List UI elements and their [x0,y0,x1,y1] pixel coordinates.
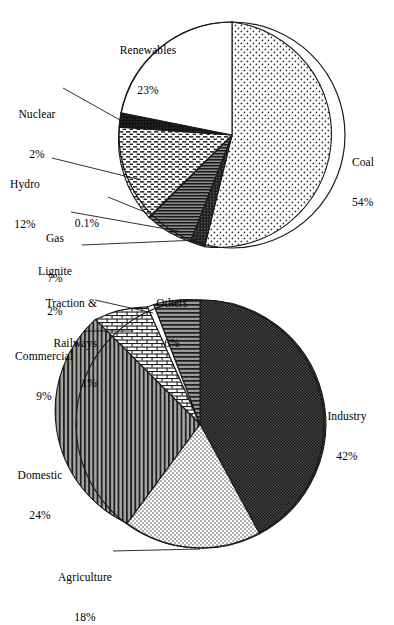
label-industry-pct: 42% [327,450,366,463]
label-commercial-pct: 9% [15,390,73,403]
label-commercial: Commercial 9% [15,324,73,430]
label-others-name: Others [156,297,187,310]
label-industry: Industry 42% [327,384,366,490]
label-others: Others 6% [156,271,187,377]
label-hydro: Hydro 12% [10,152,40,258]
label-renewables: Renewables 23% [120,18,177,124]
label-renewables-pct: 23% [120,84,177,97]
leader-line-nuclear [63,88,120,120]
leader-line-lignite [82,240,198,245]
leader-line-agriculture [113,549,200,551]
label-domestic: Domestic 24% [18,443,63,549]
label-domestic-name: Domestic [18,469,63,482]
label-agriculture: Agriculture 18% [58,545,112,625]
label-traction-railways-name-line1: Traction & [46,297,97,310]
label-coal: Coal 54% [352,130,374,236]
label-domestic-pct: 24% [18,509,63,522]
label-agriculture-pct: 18% [58,611,112,624]
label-minor-slice-pct: 0.1% [75,217,99,230]
label-others-pct: 6% [156,337,187,350]
label-minor-slice: 0.1% [75,191,99,257]
label-nuclear-name: Nuclear [18,108,55,121]
label-hydro-name: Hydro [10,178,40,191]
label-renewables-name: Renewables [120,44,177,57]
label-coal-pct: 54% [352,196,374,209]
label-agriculture-name: Agriculture [58,571,112,584]
label-commercial-name: Commercial [15,350,73,363]
label-hydro-pct: 12% [10,218,40,231]
label-coal-name: Coal [352,156,374,169]
label-industry-name: Industry [327,410,366,423]
